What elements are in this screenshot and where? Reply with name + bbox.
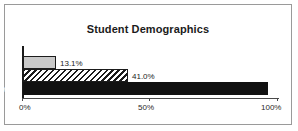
bar-series-2[interactable] [23,69,128,82]
x-axis-tick-50 [149,98,150,101]
x-axis-tick-label-100: 100% [261,103,281,112]
chart-frame: Student Demographics 0% 50% 100% 13.1% 4… [4,4,292,125]
bar-label-series-1: 13.1% [56,58,83,67]
plot-area: 0% 50% 100% 13.1% 41.0% 96.1% [23,46,278,98]
x-axis-tick-label-0: 0% [19,103,31,112]
bar-label-series-3: 96.1% [0,84,13,93]
bar-series-1[interactable] [23,56,56,69]
bar-label-series-2: 41.0% [128,71,155,80]
chart-title: Student Demographics [5,23,291,35]
x-axis-tick-label-50: 50% [138,103,154,112]
bar-series-3[interactable] [23,82,268,95]
x-axis-tick-100 [277,98,278,101]
x-axis-line [22,98,279,99]
x-axis-tick-0 [22,98,23,101]
